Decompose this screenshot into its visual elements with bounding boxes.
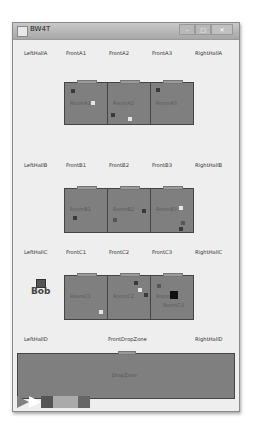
room-label: RoomC1 xyxy=(70,293,91,299)
door-b2 xyxy=(120,186,140,190)
block[interactable] xyxy=(181,221,185,225)
sequence-block xyxy=(78,396,90,408)
room-b3[interactable]: RoomB3 xyxy=(150,188,194,233)
window-title: BW4T xyxy=(30,25,50,33)
block-sequence xyxy=(17,396,90,408)
map-canvas: LeftHallA FrontA1 FrontA2 FrontA3 RightH… xyxy=(17,43,235,407)
sequence-block xyxy=(53,396,78,408)
label-lefthallc: LeftHallC xyxy=(24,249,47,255)
sequence-arrow-icon xyxy=(17,396,29,408)
app-icon xyxy=(17,26,28,37)
label-frontb2: FrontB2 xyxy=(109,162,129,168)
room-label: RoomA2 xyxy=(113,100,134,106)
label-lefthalla: LeftHallA xyxy=(24,50,47,56)
door-a3 xyxy=(163,80,183,84)
label-frontc2: FrontC2 xyxy=(109,249,129,255)
dropzone-door xyxy=(118,351,136,355)
label-righthalla: RightHallA xyxy=(195,50,222,56)
label-lefthalld: LeftHallD xyxy=(24,336,48,342)
bot-marker[interactable] xyxy=(170,291,178,299)
block[interactable] xyxy=(142,209,146,213)
label-righthallc: RightHallC xyxy=(195,249,222,255)
label-righthalld: RightHallD xyxy=(195,336,223,342)
label-lefthallb: LeftHallB xyxy=(24,162,47,168)
block[interactable] xyxy=(156,88,160,92)
door-b1 xyxy=(77,186,97,190)
room-a1[interactable]: RoomA1 xyxy=(64,82,108,125)
app-window: BW4T – □ ✕ LeftHallA FrontA1 FrontA2 Fro… xyxy=(12,22,240,412)
room-label: RoomB1 xyxy=(70,206,91,212)
room-c1[interactable]: RoomC1 xyxy=(64,275,108,320)
label-righthallb: RightHallB xyxy=(195,162,222,168)
room-label: RoomB3 xyxy=(156,206,177,212)
label-frontb3: FrontB3 xyxy=(152,162,172,168)
label-frontc3: FrontC3 xyxy=(152,249,172,255)
block[interactable] xyxy=(71,89,75,93)
room-a2[interactable]: RoomA2 xyxy=(107,82,151,125)
block[interactable] xyxy=(111,113,115,117)
block[interactable] xyxy=(99,310,103,314)
room-b2[interactable]: RoomB2 xyxy=(107,188,151,233)
maximize-button[interactable]: □ xyxy=(195,24,211,35)
dropzone-label: DropZone xyxy=(112,372,137,378)
label-frontb1: FrontB1 xyxy=(66,162,86,168)
door-c1 xyxy=(77,273,97,277)
door-b3 xyxy=(163,186,183,190)
door-a1 xyxy=(77,80,97,84)
block[interactable] xyxy=(134,281,138,285)
room-label: RoomB2 xyxy=(113,206,134,212)
dropzone[interactable]: DropZone xyxy=(17,353,235,399)
bot-name[interactable]: Bob xyxy=(31,286,51,296)
room-a3[interactable]: RoomA3 xyxy=(150,82,194,125)
block[interactable] xyxy=(138,288,142,292)
minimize-button[interactable]: – xyxy=(179,24,195,35)
bot-location-label: RoomC3 xyxy=(163,302,184,308)
room-c3[interactable]: RoomC3 RoomC3 xyxy=(150,275,194,320)
block[interactable] xyxy=(157,284,161,288)
door-c2 xyxy=(120,273,140,277)
room-b1[interactable]: RoomB1 xyxy=(64,188,108,233)
block[interactable] xyxy=(73,216,77,220)
label-frontc1: FrontC1 xyxy=(66,249,86,255)
label-fronta3: FrontA3 xyxy=(152,50,172,56)
room-label: RoomA3 xyxy=(156,100,177,106)
door-a2 xyxy=(120,80,140,84)
block[interactable] xyxy=(144,293,148,297)
label-fronta1: FrontA1 xyxy=(66,50,86,56)
block[interactable] xyxy=(91,101,95,105)
label-fronta2: FrontA2 xyxy=(109,50,129,56)
block[interactable] xyxy=(128,117,132,121)
close-button[interactable]: ✕ xyxy=(211,24,233,35)
block[interactable] xyxy=(179,206,183,210)
room-c2[interactable]: RoomC2 xyxy=(107,275,151,320)
block[interactable] xyxy=(113,218,117,222)
block[interactable] xyxy=(179,227,183,231)
room-label: RoomC2 xyxy=(113,293,134,299)
sequence-cursor-icon xyxy=(29,396,41,408)
label-frontdropzone: FrontDropZone xyxy=(108,336,147,342)
door-c3 xyxy=(163,273,183,277)
title-bar[interactable]: BW4T – □ ✕ xyxy=(13,23,239,40)
room-label: RoomA1 xyxy=(70,100,91,106)
sequence-block xyxy=(41,396,53,408)
